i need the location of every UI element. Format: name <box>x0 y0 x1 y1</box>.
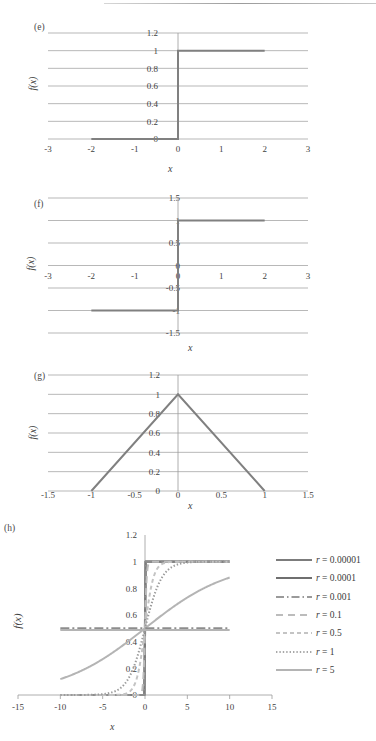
y-tick-label: 1.5 <box>169 193 181 203</box>
x-tick-label: 1.5 <box>302 490 314 500</box>
legend-swatch-3 <box>276 610 312 620</box>
x-tick-label: -1 <box>88 490 96 500</box>
legend-swatch-6 <box>276 665 312 675</box>
y-tick-label: 0.8 <box>147 64 159 74</box>
legend-item[interactable]: r = 0.1 <box>276 606 361 624</box>
y-tick-label: 1 <box>156 390 161 400</box>
panel-h: (h) f(x) x 00.20.40.60.811.2 -15-10-5051… <box>0 523 376 741</box>
x-tick-label: -0.5 <box>128 490 143 500</box>
x-tick-label: -2 <box>88 144 96 154</box>
x-tick-label: 15 <box>268 702 278 712</box>
y-tick-label: 0.8 <box>126 584 138 594</box>
x-tick-label: 3 <box>306 144 311 154</box>
panel-e-x-tick-labels: -3-2-10123 <box>44 144 311 154</box>
panel-e-plot: 00.20.40.60.811.2 -3-2-10123 <box>0 0 376 185</box>
panel-g-x-tick-labels: -1.5-1-0.500.511.5 <box>41 490 314 500</box>
x-tick-label: 0 <box>176 144 181 154</box>
x-tick-label: -5 <box>99 702 107 712</box>
x-tick-label: 1 <box>262 490 267 500</box>
y-tick-label: 0.4 <box>147 99 159 109</box>
panel-h-y-tick-labels: 00.20.40.60.811.2 <box>126 530 138 700</box>
legend-label: r = 1 <box>316 647 335 657</box>
panel-e-y-tick-labels: 00.20.40.60.811.2 <box>147 28 159 144</box>
legend-label: r = 0.001 <box>316 592 351 602</box>
legend-label: r = 0.5 <box>316 628 342 638</box>
panel-e: (e) f(x) x 00.20.40.60.811.2 -3-2-10123 <box>0 0 376 185</box>
x-tick-label: 10 <box>225 702 235 712</box>
y-tick-label: 0.6 <box>149 428 161 438</box>
y-tick-label: 0 <box>156 486 161 496</box>
legend-label: r = 5 <box>316 665 335 675</box>
x-tick-label: 0 <box>176 490 181 500</box>
x-tick-label: 5 <box>185 702 190 712</box>
y-tick-label: 0.2 <box>149 467 160 477</box>
x-tick-label: 2 <box>262 144 267 154</box>
x-tick-label: 1 <box>219 144 224 154</box>
panel-h-data-series <box>60 562 229 695</box>
legend-item[interactable]: r = 0.001 <box>276 588 361 606</box>
y-tick-label: 1 <box>154 46 159 56</box>
y-tick-label: 1.2 <box>126 530 137 540</box>
data-line <box>91 51 264 139</box>
legend-label: r = 0.0001 <box>316 573 356 583</box>
panel-f: (f) f(x) x -1.5-1-0.500.511.5 -3-2-10123 <box>0 185 376 365</box>
legend-swatch-4 <box>276 628 312 638</box>
panel-g-y-tick-labels: 00.20.40.60.811.2 <box>149 370 161 496</box>
legend-item[interactable]: r = 0.00001 <box>276 551 361 569</box>
legend-item[interactable]: r = 1 <box>276 642 361 660</box>
legend-swatch-5 <box>276 647 312 657</box>
y-tick-label: 0.2 <box>147 117 158 127</box>
x-tick-label: 3 <box>306 271 311 281</box>
y-tick-label: 1.2 <box>149 370 160 380</box>
x-tick-label: -1 <box>131 144 139 154</box>
y-tick-label: 1.2 <box>147 28 158 38</box>
x-tick-label: 0.5 <box>216 490 228 500</box>
panel-h-x-tick-labels: -15-10-5051015 <box>12 702 277 712</box>
legend-label: r = 0.00001 <box>316 555 361 565</box>
legend-item[interactable]: r = 5 <box>276 661 361 679</box>
panel-h-legend: r = 0.00001r = 0.0001r = 0.001r = 0.1r =… <box>276 551 361 679</box>
legend-swatch-0 <box>276 555 312 565</box>
panel-h-plot: 00.20.40.60.811.2 -15-10-5051015 <box>0 523 290 741</box>
x-tick-label: -1 <box>131 271 139 281</box>
y-tick-label: 0.6 <box>126 610 138 620</box>
panel-g-plot: 00.20.40.60.811.2 -1.5-1-0.500.511.5 <box>0 365 376 523</box>
legend-swatch-1 <box>276 573 312 583</box>
legend-item[interactable]: r = 0.5 <box>276 624 361 642</box>
legend-label: r = 0.1 <box>316 610 342 620</box>
panel-g: (g) f(x) x 00.20.40.60.811.2 -1.5-1-0.50… <box>0 365 376 523</box>
x-tick-label: 2 <box>262 271 267 281</box>
y-tick-label: 0.4 <box>149 448 161 458</box>
panel-e-data-series <box>91 51 264 139</box>
x-tick-label: 0 <box>143 702 148 712</box>
panel-f-plot: -1.5-1-0.500.511.5 -3-2-10123 <box>0 185 376 365</box>
x-tick-label: -2 <box>88 271 96 281</box>
x-tick-label: -3 <box>44 144 52 154</box>
x-tick-label: -3 <box>44 271 52 281</box>
y-tick-label: 0.8 <box>149 409 161 419</box>
y-tick-label: 0.6 <box>147 81 159 91</box>
x-tick-label: 1 <box>219 271 224 281</box>
legend-swatch-2 <box>276 592 312 602</box>
x-tick-label: -10 <box>54 702 66 712</box>
x-tick-label: -15 <box>12 702 24 712</box>
x-tick-label: -1.5 <box>41 490 56 500</box>
y-tick-label: 1 <box>133 557 138 567</box>
legend-item[interactable]: r = 0.0001 <box>276 569 361 587</box>
